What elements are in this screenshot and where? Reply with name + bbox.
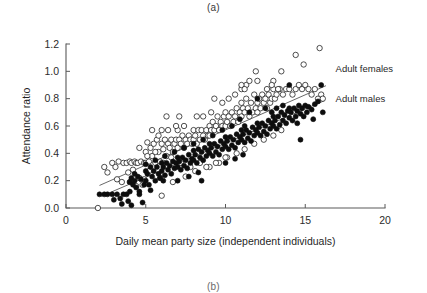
data-point <box>213 160 218 165</box>
data-point <box>249 139 254 144</box>
y-axis-title: Attendance ratio <box>20 88 32 165</box>
x-tick-label: 5 <box>143 214 149 226</box>
data-point <box>192 133 197 138</box>
data-point <box>226 96 231 101</box>
data-point <box>200 114 205 119</box>
data-point <box>159 127 164 132</box>
data-point <box>210 133 215 138</box>
y-tick-label: 0.0 <box>44 202 59 214</box>
data-point <box>110 192 115 197</box>
data-point <box>181 123 186 128</box>
data-point <box>244 96 249 101</box>
y-tick-label: 0.6 <box>44 120 59 132</box>
data-point <box>220 128 225 133</box>
data-point <box>242 147 247 152</box>
data-point <box>271 133 276 138</box>
data-point <box>306 86 311 91</box>
series-label: Adult males <box>336 93 386 104</box>
x-tick-label: 10 <box>220 214 232 226</box>
data-point <box>145 153 150 158</box>
data-point <box>293 114 298 119</box>
panel-label-b: (b) <box>0 281 427 292</box>
data-point <box>290 92 295 97</box>
data-point <box>153 178 158 183</box>
data-point <box>212 96 217 101</box>
data-point <box>173 123 178 128</box>
data-point <box>287 83 292 88</box>
data-point <box>312 86 317 91</box>
data-point <box>242 124 247 129</box>
data-point <box>175 178 180 183</box>
data-point <box>145 171 150 176</box>
data-point <box>111 197 116 202</box>
data-point <box>162 154 167 159</box>
data-point <box>196 170 201 175</box>
data-point <box>191 141 196 146</box>
data-point <box>309 107 314 112</box>
data-point <box>255 96 260 101</box>
data-point <box>317 45 322 50</box>
data-point <box>208 110 213 115</box>
data-point <box>279 69 284 74</box>
data-point <box>137 145 142 150</box>
data-point <box>269 82 274 87</box>
data-point <box>199 178 204 183</box>
data-point <box>284 121 289 126</box>
data-point <box>237 117 242 122</box>
data-point <box>295 121 300 126</box>
data-point <box>137 192 142 197</box>
y-tick-label: 0.4 <box>44 147 59 159</box>
y-tick-label: 1.2 <box>44 38 59 50</box>
data-point <box>215 114 220 119</box>
data-point <box>148 188 153 193</box>
data-point <box>140 200 145 205</box>
x-tick-label: 20 <box>379 214 391 226</box>
data-point <box>217 152 222 157</box>
data-point <box>255 78 260 83</box>
data-point <box>316 99 321 104</box>
data-point <box>280 92 285 97</box>
x-axis-title: Daily mean party size (independent indiv… <box>115 235 335 247</box>
data-point <box>264 132 269 137</box>
data-point <box>215 144 220 149</box>
data-point <box>153 158 158 163</box>
data-point <box>153 149 158 154</box>
data-point <box>161 147 166 152</box>
y-tick-label: 1.0 <box>44 65 59 77</box>
data-point <box>172 149 177 154</box>
data-point <box>233 145 238 150</box>
data-point <box>275 86 280 91</box>
data-point <box>247 110 252 115</box>
data-point <box>301 62 306 67</box>
data-point <box>97 192 102 197</box>
data-point <box>247 78 252 83</box>
data-point <box>143 162 148 167</box>
data-point <box>119 201 124 206</box>
y-tick-label: 0.8 <box>44 92 59 104</box>
data-point <box>247 130 252 135</box>
data-point <box>223 160 228 165</box>
data-point <box>279 127 284 132</box>
x-tick-label: 15 <box>299 214 311 226</box>
data-point <box>149 127 154 132</box>
data-point <box>129 203 134 208</box>
data-point <box>182 145 187 150</box>
data-point <box>258 106 263 111</box>
data-point <box>263 106 268 111</box>
data-point <box>193 152 198 157</box>
data-point <box>138 177 143 182</box>
data-point <box>194 160 199 165</box>
data-point <box>304 110 309 115</box>
data-point <box>231 137 236 142</box>
data-point <box>204 164 209 169</box>
data-point <box>95 205 100 210</box>
data-point <box>105 192 110 197</box>
data-point <box>263 124 268 129</box>
data-point <box>229 124 234 129</box>
data-point <box>274 106 279 111</box>
data-point <box>105 170 110 175</box>
data-point <box>102 164 107 169</box>
series-label: Adult females <box>336 63 394 74</box>
data-point <box>194 114 199 119</box>
data-point <box>319 83 324 88</box>
